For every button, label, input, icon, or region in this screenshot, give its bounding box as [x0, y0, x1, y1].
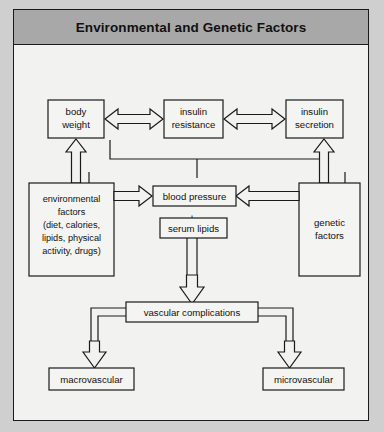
- node-insulin-resistance: insulin resistance: [164, 100, 223, 138]
- node-blood-pressure: blood pressure: [153, 186, 236, 206]
- blood-pressure-label: blood pressure: [163, 191, 226, 202]
- arrow-up-to-insulinsecretion: [314, 139, 334, 183]
- env-factors-label-line3: (diet, calories,: [43, 220, 100, 230]
- serum-lipids-label: serum lipids: [168, 223, 219, 234]
- genetic-factors-label-line2: factors: [315, 230, 344, 241]
- arrow-down-to-microvascular: [278, 341, 301, 368]
- arrow-down-to-vascular: [180, 275, 204, 304]
- diagram-canvas: body weight insulin resistance insulin s…: [14, 45, 368, 422]
- microvascular-label: microvascular: [274, 374, 334, 385]
- body-weight-label-line2: weight: [61, 119, 90, 130]
- arrow-bodyweight-insulinresistance: [105, 109, 163, 129]
- node-serum-lipids: serum lipids: [160, 218, 227, 238]
- connector-top-bus: [110, 140, 325, 159]
- connector-vasc-to-macro-2: [98, 316, 126, 352]
- arrow-genetic-to-bloodpressure: [236, 186, 299, 206]
- figure-title-band: Environmental and Genetic Factors: [14, 10, 368, 45]
- node-macrovascular: macrovascular: [49, 368, 134, 390]
- node-microvascular: microvascular: [263, 368, 344, 390]
- node-environmental-factors: environmental factors (diet, calories, l…: [29, 183, 114, 276]
- arrow-down-to-macrovascular: [83, 341, 106, 368]
- node-vascular-complications: vascular complications: [126, 302, 258, 322]
- connector-vasc-to-micro-2: [258, 316, 286, 352]
- env-factors-label-line1: environmental: [43, 194, 101, 204]
- node-insulin-secretion: insulin secretion: [286, 100, 343, 138]
- arrow-up-to-bodyweight: [66, 139, 86, 183]
- insulin-secretion-label-line1: insulin: [301, 106, 328, 117]
- arrow-env-to-bloodpressure: [114, 186, 152, 206]
- page-title: Environmental and Genetic Factors: [76, 20, 307, 35]
- insulin-resistance-label-line1: insulin: [180, 106, 207, 117]
- env-factors-label-line4: lipids, physical: [42, 233, 101, 243]
- env-factors-label-line2: factors: [58, 207, 86, 217]
- body-weight-label-line1: body: [66, 106, 87, 117]
- node-body-weight: body weight: [48, 100, 104, 138]
- arrow-insulinresistance-insulinsecretion: [224, 109, 285, 129]
- insulin-resistance-label-line2: resistance: [172, 119, 216, 130]
- macrovascular-label: macrovascular: [60, 374, 123, 385]
- figure-panel: Environmental and Genetic Factors body w…: [13, 9, 369, 421]
- node-genetic-factors: genetic factors: [299, 183, 360, 276]
- vascular-complications-label: vascular complications: [144, 307, 241, 318]
- env-factors-label-line5: activity, drugs): [42, 246, 101, 256]
- genetic-factors-label-line1: genetic: [314, 217, 345, 228]
- insulin-secretion-label-line2: secretion: [295, 119, 334, 130]
